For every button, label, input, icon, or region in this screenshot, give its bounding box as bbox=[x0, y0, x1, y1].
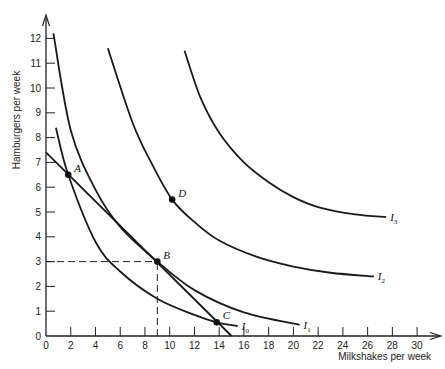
budget-line bbox=[46, 152, 232, 336]
x-tick-label: 12 bbox=[189, 340, 201, 351]
y-tick-label: 6 bbox=[35, 182, 41, 193]
point-label-b: B bbox=[163, 249, 170, 261]
point-a bbox=[65, 172, 72, 179]
y-tick-label: 5 bbox=[35, 207, 41, 218]
point-label-a: A bbox=[73, 162, 81, 174]
x-tick-label: 10 bbox=[164, 340, 176, 351]
indifference-curve-i3 bbox=[185, 51, 387, 217]
annotated-points: ABCD bbox=[65, 162, 231, 326]
curve-label-i0: I0 bbox=[241, 320, 250, 335]
curves: I0I1I2I3 bbox=[46, 33, 398, 336]
x-tick-label: 30 bbox=[412, 340, 424, 351]
x-axis-title: Milkshakes per week bbox=[338, 351, 432, 362]
y-tick-label: 4 bbox=[35, 231, 41, 242]
curve-label-i3: I3 bbox=[389, 211, 398, 226]
x-tick-label: 24 bbox=[337, 340, 349, 351]
point-label-c: C bbox=[223, 309, 231, 321]
point-b bbox=[154, 258, 161, 265]
point-label-d: D bbox=[177, 187, 186, 199]
x-tick-label: 4 bbox=[93, 340, 99, 351]
x-tick-label: 22 bbox=[313, 340, 325, 351]
y-axis-title: Hamburgers per week bbox=[11, 70, 22, 169]
y-tick-label: 8 bbox=[35, 132, 41, 143]
y-tick-label: 0 bbox=[35, 331, 41, 342]
x-tick-label: 28 bbox=[387, 340, 399, 351]
indifference-curve-i0 bbox=[56, 128, 238, 326]
y-tick-label: 10 bbox=[30, 83, 42, 94]
point-c bbox=[213, 319, 220, 326]
point-d bbox=[169, 196, 176, 203]
y-tick-label: 7 bbox=[35, 157, 41, 168]
x-tick-label: 8 bbox=[142, 340, 148, 351]
y-tick-label: 1 bbox=[35, 306, 41, 317]
x-tick-label: 2 bbox=[68, 340, 74, 351]
y-tick-label: 9 bbox=[35, 107, 41, 118]
x-tick-label: 20 bbox=[288, 340, 300, 351]
reference-dashed-lines bbox=[46, 262, 157, 336]
curve-label-i1: I1 bbox=[303, 319, 312, 334]
x-tick-label: 18 bbox=[263, 340, 275, 351]
indifference-curve-chart: 0123456789101112024681012141618202224262… bbox=[0, 0, 445, 369]
y-tick-label: 12 bbox=[30, 33, 42, 44]
x-tick-label: 16 bbox=[238, 340, 250, 351]
x-tick-label: 0 bbox=[43, 340, 49, 351]
x-tick-label: 6 bbox=[117, 340, 123, 351]
x-tick-label: 26 bbox=[362, 340, 374, 351]
y-tick-label: 3 bbox=[35, 256, 41, 267]
x-tick-label: 14 bbox=[214, 340, 226, 351]
y-tick-label: 11 bbox=[31, 58, 42, 69]
y-tick-label: 2 bbox=[35, 281, 41, 292]
curve-label-i2: I2 bbox=[377, 270, 386, 285]
indifference-curve-i2 bbox=[108, 48, 374, 276]
